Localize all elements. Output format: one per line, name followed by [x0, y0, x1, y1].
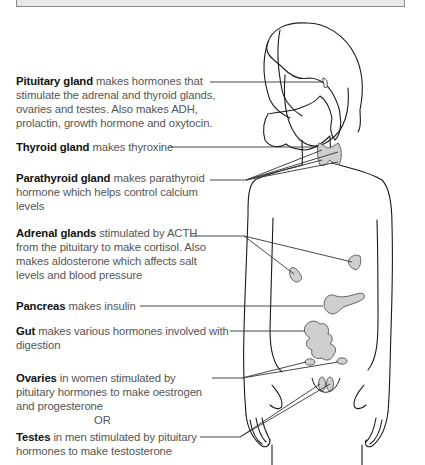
pancreas-name: Pancreas [16, 300, 65, 312]
adrenal-gland-left [290, 267, 302, 282]
hair-outline [264, 23, 341, 150]
ovaries-label: Ovaries in women stimulated by pituitary… [16, 371, 216, 413]
or-separator: OR [94, 414, 111, 426]
thyroid-name: Thyroid gland [16, 141, 89, 153]
adrenal-name: Adrenal glands [16, 227, 96, 239]
pancreas-label: Pancreas makes insulin [16, 299, 146, 313]
thyroid-label: Thyroid gland makes thyroxine [16, 140, 176, 154]
pancreas [324, 293, 365, 314]
adrenal-gland-right [348, 255, 360, 270]
testes-name: Testes [16, 431, 50, 443]
ovary-right [337, 358, 347, 364]
pituitary-label: Pituitary gland makes hormones that stim… [16, 74, 221, 130]
parathyroid-name: Parathyroid gland [16, 172, 110, 184]
adrenal-label: Adrenal glands stimulated by ACTH from t… [16, 226, 216, 282]
thyroid-description: makes thyroxine [89, 141, 173, 153]
gut-name: Gut [16, 325, 35, 337]
pituitary-gland [323, 78, 327, 88]
gut-description: makes various hormones involved with dig… [16, 325, 229, 351]
gut [304, 321, 335, 360]
pancreas-description: makes insulin [65, 300, 135, 312]
testes-label: Testes in men stimulated by pituitary ho… [16, 430, 201, 458]
ovary-left [305, 359, 315, 365]
ovaries-leader [212, 362, 338, 378]
parathyroid-label: Parathyroid gland makes parathyroid horm… [16, 171, 206, 213]
gut-label: Gut makes various hormones involved with… [16, 324, 231, 352]
pituitary-name: Pituitary gland [16, 75, 93, 87]
ovaries-name: Ovaries [16, 372, 57, 384]
